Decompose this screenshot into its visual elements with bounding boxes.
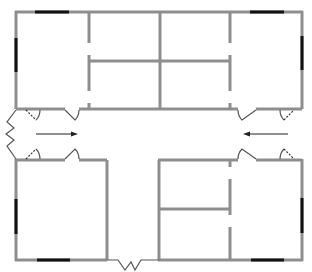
door-top-left-dashed[interactable]	[26, 110, 36, 120]
arrow-left-icon	[243, 132, 250, 137]
door-top-right-arc	[280, 110, 284, 120]
door-bottom-right-dashed[interactable]	[284, 149, 294, 159]
arrow-right-icon	[71, 132, 78, 137]
entrances[interactable]	[6, 109, 302, 270]
door-bottom-center-right[interactable]	[238, 149, 256, 159]
south-entrance[interactable]	[107, 260, 159, 270]
west-entrance[interactable]	[6, 110, 16, 159]
door-top-center-right[interactable]	[238, 110, 256, 120]
door-bottom-left-arc	[36, 149, 40, 159]
upper-interior-walls	[89, 12, 230, 109]
door-bottom-right-arc	[280, 149, 284, 159]
floor-plan	[0, 0, 312, 272]
door-bottom-center-left[interactable]	[65, 149, 79, 159]
direction-arrows	[36, 132, 288, 137]
door-top-left-arc	[36, 110, 40, 120]
door-top-center-left[interactable]	[65, 110, 79, 120]
lower-interior-walls	[107, 160, 231, 260]
door-bottom-left-dashed[interactable]	[26, 149, 36, 159]
door-top-right-dashed[interactable]	[284, 110, 294, 120]
